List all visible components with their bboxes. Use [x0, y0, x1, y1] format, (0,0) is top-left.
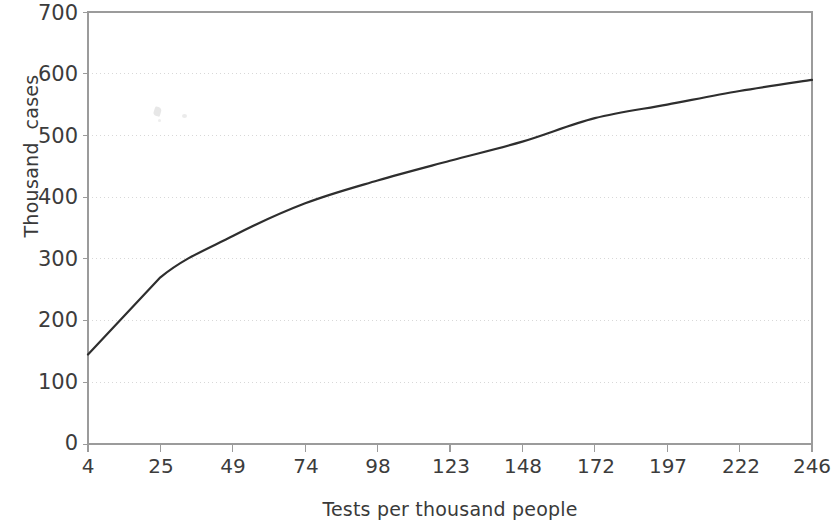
gridlines	[88, 74, 812, 383]
data-series-line	[88, 80, 812, 355]
x-axis-ticks	[88, 444, 812, 452]
plot-frame	[88, 12, 812, 444]
plot-area	[0, 0, 835, 526]
y-axis-ticks	[83, 12, 88, 444]
line-chart: Thousand cases 700 600 500 400 300 200 1…	[0, 0, 835, 526]
